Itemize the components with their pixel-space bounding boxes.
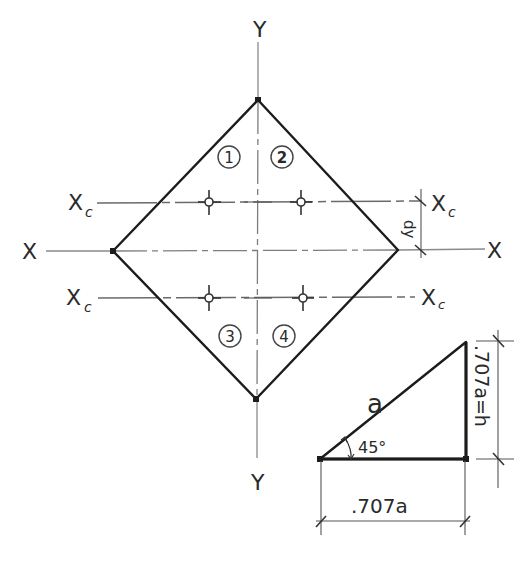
- svg-text:3: 3: [225, 328, 235, 346]
- base-label: .707a: [351, 494, 408, 518]
- svg-text:1: 1: [224, 149, 234, 167]
- svg-text:c: c: [438, 297, 445, 312]
- region-label-3: 3: [219, 325, 241, 347]
- y-axis-top-label: Y: [252, 17, 267, 42]
- lower-left-xc-label: X c: [66, 285, 92, 315]
- region-label-1: 1: [218, 146, 240, 168]
- height-label-rendered: .707a=h: [471, 345, 493, 427]
- region-label-4: 4: [273, 325, 295, 347]
- svg-text:4: 4: [279, 328, 289, 346]
- svg-text:X: X: [66, 285, 81, 310]
- right-triangle: [317, 342, 469, 462]
- svg-text:c: c: [84, 299, 92, 315]
- diamond-section-diagram: Y Y X X X c X c X c X c: [0, 0, 527, 561]
- centroid-marker-1: [198, 190, 221, 215]
- vertex-markers: [110, 97, 261, 402]
- angle-label: 45°: [358, 438, 386, 457]
- x-axis-left-label: X: [22, 239, 37, 264]
- svg-text:X: X: [68, 190, 83, 215]
- upper-left-xc-label: X c: [68, 190, 93, 220]
- hypotenuse-label: a: [367, 389, 383, 419]
- centroid-marker-2: [290, 190, 312, 215]
- dy-dimension: dy: [400, 189, 426, 258]
- centroid-marker-4: [292, 285, 314, 311]
- svg-text:X: X: [421, 285, 436, 310]
- svg-text:c: c: [448, 204, 456, 220]
- lower-right-xc-label: X c: [421, 285, 445, 312]
- svg-text:c: c: [85, 204, 93, 220]
- region-label-2: 2: [271, 146, 293, 168]
- y-axis-bottom-label: Y: [250, 470, 265, 495]
- svg-text:X: X: [431, 191, 446, 216]
- centroid-marker-3: [198, 285, 221, 311]
- dy-label: dy: [400, 220, 418, 239]
- x-axis-right-label: X: [487, 238, 502, 263]
- svg-text:2: 2: [277, 149, 287, 167]
- upper-right-xc-label: X c: [431, 191, 456, 220]
